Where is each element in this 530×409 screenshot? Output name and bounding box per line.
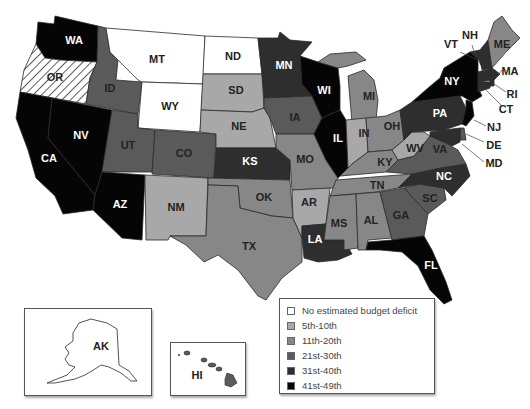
svg-text:MS: MS: [331, 217, 348, 229]
alaska-inset: AK: [24, 308, 152, 396]
legend-item-5-10: 5th-10th: [287, 318, 434, 333]
legend-label: 21st-30th: [302, 350, 342, 361]
svg-text:OK: OK: [256, 191, 273, 203]
state-de[interactable]: [460, 128, 466, 140]
svg-text:DE: DE: [486, 139, 501, 151]
state-fl[interactable]: [366, 236, 452, 304]
hawaii-map: HI: [171, 343, 245, 395]
svg-text:LA: LA: [308, 233, 323, 245]
svg-text:KY: KY: [377, 156, 393, 168]
svg-text:WI: WI: [317, 84, 330, 96]
svg-text:IN: IN: [359, 127, 370, 139]
svg-text:MT: MT: [149, 53, 165, 65]
legend-swatch: [287, 307, 295, 315]
svg-text:NY: NY: [444, 75, 460, 87]
legend-swatch: [287, 382, 295, 390]
svg-text:WY: WY: [161, 100, 179, 112]
svg-text:NE: NE: [231, 120, 246, 132]
legend-label: 11th-20th: [302, 335, 341, 346]
svg-text:OH: OH: [384, 120, 401, 132]
svg-text:FL: FL: [424, 259, 438, 271]
legend-label: 41st-49th: [302, 380, 342, 391]
svg-text:RI: RI: [507, 88, 518, 100]
svg-text:WA: WA: [65, 34, 83, 46]
legend-item-no-deficit: No estimated budget deficit: [287, 303, 434, 318]
legend-item-31-40: 31st-40th: [287, 363, 434, 378]
svg-text:SD: SD: [228, 84, 243, 96]
svg-text:NJ: NJ: [487, 121, 501, 133]
svg-text:OR: OR: [47, 71, 64, 83]
hawaii-inset: HI: [170, 342, 246, 396]
svg-text:MA: MA: [501, 65, 518, 77]
svg-text:ND: ND: [225, 50, 241, 62]
svg-text:UT: UT: [121, 139, 136, 151]
svg-text:NV: NV: [73, 129, 89, 141]
state-ma[interactable]: [478, 68, 500, 82]
svg-text:HI: HI: [192, 369, 203, 381]
svg-text:SC: SC: [422, 192, 437, 204]
svg-text:MI: MI: [363, 90, 375, 102]
legend-item-11-20: 11th-20th: [287, 333, 434, 348]
svg-text:AK: AK: [93, 340, 109, 352]
svg-text:WV: WV: [406, 142, 424, 154]
svg-text:MD: MD: [485, 157, 502, 169]
svg-text:CT: CT: [499, 103, 514, 115]
svg-text:NC: NC: [436, 170, 452, 182]
legend-item-41-49: 41st-49th: [287, 378, 434, 393]
state-hi[interactable]: [225, 373, 237, 387]
svg-text:IA: IA: [290, 111, 301, 123]
svg-text:VA: VA: [433, 143, 448, 155]
svg-text:KS: KS: [242, 155, 257, 167]
svg-text:GA: GA: [393, 209, 410, 221]
svg-text:CO: CO: [176, 147, 193, 159]
legend-label: 5th-10th: [302, 320, 337, 331]
svg-text:AZ: AZ: [113, 198, 128, 210]
legend-swatch: [287, 352, 295, 360]
state-ct[interactable]: [478, 82, 490, 92]
state-ri[interactable]: [490, 80, 494, 86]
legend-swatch: [287, 337, 295, 345]
state-ak[interactable]: [47, 319, 137, 383]
legend-swatch: [287, 367, 295, 375]
svg-text:MN: MN: [275, 59, 292, 71]
svg-text:PA: PA: [433, 107, 448, 119]
svg-text:AR: AR: [301, 196, 317, 208]
svg-text:VT: VT: [444, 38, 458, 50]
svg-text:TN: TN: [370, 179, 385, 191]
legend-item-21-30: 21st-30th: [287, 348, 434, 363]
legend-label: No estimated budget deficit: [302, 305, 417, 316]
svg-text:ID: ID: [105, 82, 116, 94]
legend-swatch: [287, 322, 295, 330]
legend: No estimated budget deficit 5th-10th 11t…: [279, 298, 435, 394]
svg-text:ME: ME: [494, 38, 511, 50]
svg-text:NH: NH: [462, 29, 478, 41]
svg-text:MO: MO: [296, 153, 314, 165]
svg-text:CA: CA: [41, 152, 57, 164]
alaska-map: AK: [25, 309, 151, 395]
svg-text:AL: AL: [364, 214, 379, 226]
svg-text:TX: TX: [242, 240, 257, 252]
svg-text:IL: IL: [333, 132, 343, 144]
legend-label: 31st-40th: [302, 365, 342, 376]
svg-text:NM: NM: [167, 201, 184, 213]
